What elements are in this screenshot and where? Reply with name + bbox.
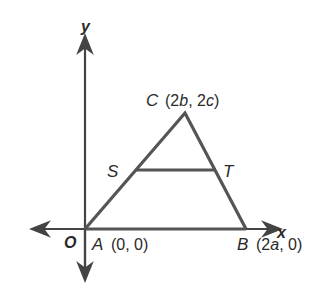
point-b-label: B (2a, 0) — [237, 235, 302, 254]
svg-text:(0, 0): (0, 0) — [111, 236, 148, 253]
y-axis-label: y — [80, 18, 91, 35]
svg-text:B: B — [237, 235, 248, 254]
svg-text:C: C — [146, 91, 159, 110]
origin-label: O — [64, 234, 77, 251]
point-t-label: T — [223, 162, 235, 181]
svg-text:A: A — [91, 235, 103, 254]
coordinate-diagram: y x O A (0, 0) B (2a, 0) C (2b, 2c) S T — [0, 0, 319, 298]
point-c-label: C (2b, 2c) — [146, 91, 219, 110]
svg-text:(2a, 0): (2a, 0) — [256, 236, 302, 253]
point-a-label: A (0, 0) — [91, 235, 148, 254]
point-s-label: S — [107, 162, 119, 181]
svg-text:(2b, 2c): (2b, 2c) — [165, 92, 219, 109]
